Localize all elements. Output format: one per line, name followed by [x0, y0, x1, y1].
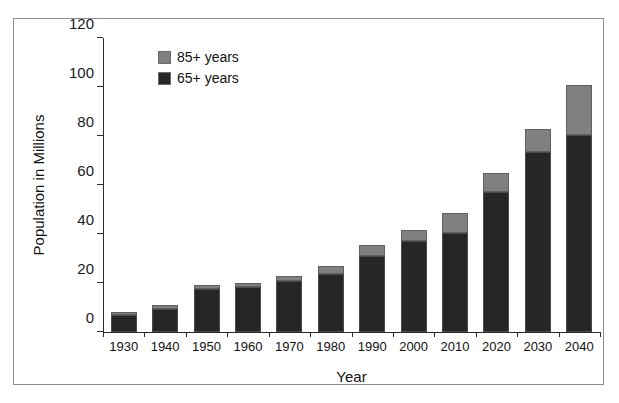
x-axis-title: Year	[103, 368, 600, 385]
bar-group	[194, 285, 220, 332]
bar-group	[152, 305, 178, 332]
bar-group	[566, 85, 592, 332]
bar-group	[401, 230, 427, 332]
bar-segment	[566, 135, 592, 332]
bar-group	[276, 276, 302, 332]
x-axis-tick	[186, 332, 187, 337]
bar-segment	[483, 192, 509, 332]
bar-segment	[152, 309, 178, 332]
bar-segment	[111, 312, 137, 314]
y-axis-tick-label: 80	[77, 114, 94, 129]
chart-legend: 85+ years65+ years	[158, 48, 239, 87]
y-axis-tick-label: 0	[86, 310, 94, 325]
bar-group	[483, 173, 509, 332]
y-axis-tick-label: 100	[69, 65, 94, 80]
y-axis-tick	[97, 282, 103, 283]
y-axis-tick	[97, 184, 103, 185]
x-axis-tick	[227, 332, 228, 337]
y-axis-title: Population in Millions	[27, 38, 49, 332]
y-axis-tick-label: 60	[77, 163, 94, 178]
legend-label: 85+ years	[177, 50, 239, 64]
bar-segment	[111, 315, 137, 332]
bar-segment	[442, 233, 468, 332]
x-axis-tick	[393, 332, 394, 337]
y-axis-tick-label: 20	[77, 261, 94, 276]
x-axis-tick-label: 1990	[358, 340, 387, 353]
bar-segment	[359, 256, 385, 332]
x-axis-tick	[559, 332, 560, 337]
legend-label: 65+ years	[177, 71, 239, 85]
bar-group	[318, 266, 344, 332]
bar-group	[235, 283, 261, 332]
bar-group	[442, 213, 468, 332]
y-axis-tick	[97, 86, 103, 87]
bar-segment	[318, 266, 344, 275]
x-axis-tick	[517, 332, 518, 337]
bar-segment	[525, 152, 551, 332]
bar-segment	[318, 274, 344, 332]
x-axis-tick-label: 1980	[316, 340, 345, 353]
bar-segment	[235, 283, 261, 287]
chart-figure: Population in Millions 020406080100120 1…	[0, 0, 619, 403]
y-axis-tick-label: 40	[77, 212, 94, 227]
x-axis-tick-label: 2040	[565, 340, 594, 353]
bar-segment	[483, 173, 509, 193]
x-axis-tick	[269, 332, 270, 337]
x-axis-tick-label: 2000	[399, 340, 428, 353]
x-axis-tick	[310, 332, 311, 337]
y-axis-tick	[97, 37, 103, 38]
x-axis-tick	[434, 332, 435, 337]
legend-item: 85+ years	[158, 48, 239, 66]
bar-segment	[401, 241, 427, 332]
bar-segment	[401, 230, 427, 241]
bar-segment	[442, 213, 468, 233]
x-axis-tick	[352, 332, 353, 337]
legend-item: 65+ years	[158, 69, 239, 87]
x-axis-tick-label: 2030	[523, 340, 552, 353]
bar-segment	[235, 287, 261, 332]
bar-segment	[152, 305, 178, 309]
x-axis-tick-label: 2010	[441, 340, 470, 353]
x-axis-tick-label: 1930	[109, 340, 138, 353]
y-axis-tick	[97, 233, 103, 234]
x-axis-tick-label: 1940	[151, 340, 180, 353]
x-axis-tick-label: 1970	[275, 340, 304, 353]
legend-swatch-icon	[158, 51, 171, 64]
bar-group	[359, 245, 385, 332]
bar-segment	[525, 129, 551, 152]
x-axis-tick	[476, 332, 477, 337]
x-axis-tick	[103, 332, 104, 337]
x-axis-tick-label: 1960	[233, 340, 262, 353]
bar-segment	[566, 85, 592, 135]
bar-segment	[276, 281, 302, 332]
x-axis-tick	[144, 332, 145, 337]
bar-segment	[194, 285, 220, 289]
x-axis-tick-label: 2020	[482, 340, 511, 353]
bar-group	[111, 312, 137, 332]
bar-group	[525, 129, 551, 332]
legend-swatch-icon	[158, 72, 171, 85]
bar-segment	[276, 276, 302, 281]
x-axis-tick	[600, 332, 601, 337]
x-axis-tick-label: 1950	[192, 340, 221, 353]
bar-segment	[359, 245, 385, 256]
y-axis-tick	[97, 135, 103, 136]
y-axis-tick-label: 120	[69, 16, 94, 31]
bar-segment	[194, 289, 220, 332]
